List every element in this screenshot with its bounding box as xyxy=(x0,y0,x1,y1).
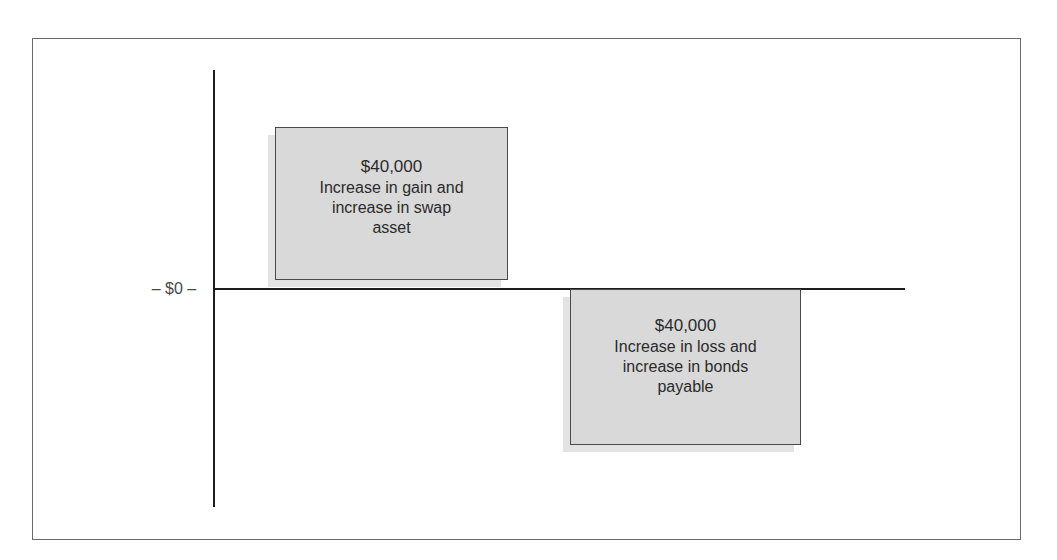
loss-bonds-payable-box: $40,000 Increase in loss and increase in… xyxy=(570,289,801,445)
loss-description-line-3: payable xyxy=(657,377,713,397)
gain-amount: $40,000 xyxy=(361,156,422,178)
loss-description-line-1: Increase in loss and xyxy=(614,337,756,357)
loss-description-line-2: increase in bonds xyxy=(623,357,748,377)
gain-description-line-2: increase in swap xyxy=(332,198,451,218)
gain-description-line-1: Increase in gain and xyxy=(319,178,463,198)
zero-axis-label: – $0 – xyxy=(136,278,212,300)
gain-description-line-3: asset xyxy=(372,218,410,238)
loss-amount: $40,000 xyxy=(655,315,716,337)
gain-swap-asset-box: $40,000 Increase in gain and increase in… xyxy=(275,127,508,280)
zero-baseline-axis xyxy=(214,288,905,290)
